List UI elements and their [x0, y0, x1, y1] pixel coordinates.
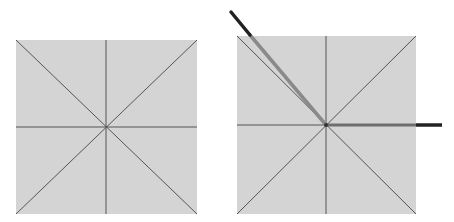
diagram-canvas	[0, 0, 454, 222]
diagonal-rod-outer	[231, 12, 250, 35]
rod-pivot	[324, 123, 328, 127]
right-square-panel	[231, 12, 442, 214]
left-square-panel	[16, 40, 197, 214]
